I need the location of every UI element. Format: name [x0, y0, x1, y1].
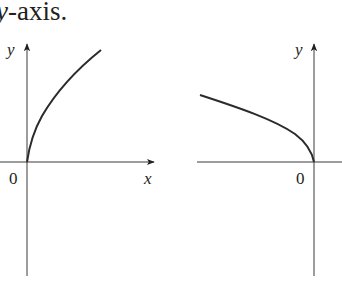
left-graph — [0, 44, 154, 276]
figure-canvas — [0, 0, 342, 294]
right-curve-sqrt-neg-x — [200, 95, 314, 162]
left-curve-sqrt-x — [27, 50, 101, 162]
left-x-axis-label: x — [144, 170, 152, 188]
right-origin-label: 0 — [296, 170, 305, 188]
left-y-axis-label: y — [7, 41, 15, 59]
left-origin-label: 0 — [9, 170, 18, 188]
right-y-axis-label: y — [295, 41, 303, 59]
right-graph — [197, 44, 342, 276]
